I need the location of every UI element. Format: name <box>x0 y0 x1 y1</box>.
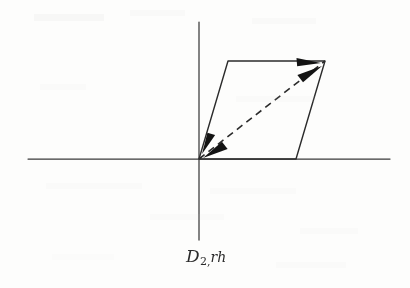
caption-symbol: D <box>186 246 200 266</box>
vertex-top-arrowhead-icon <box>296 58 321 66</box>
vertex-diagonal-arrowhead-icon <box>297 66 322 82</box>
diagram-caption-label: D2,rh <box>186 248 226 267</box>
caption-suffix: rh <box>211 249 227 265</box>
figure-container: D2,rh <box>0 0 410 288</box>
scan-grain-texture <box>34 10 358 268</box>
caption-subscript: 2, <box>200 255 211 268</box>
axes-group <box>28 22 390 240</box>
diagram-canvas <box>0 0 410 288</box>
